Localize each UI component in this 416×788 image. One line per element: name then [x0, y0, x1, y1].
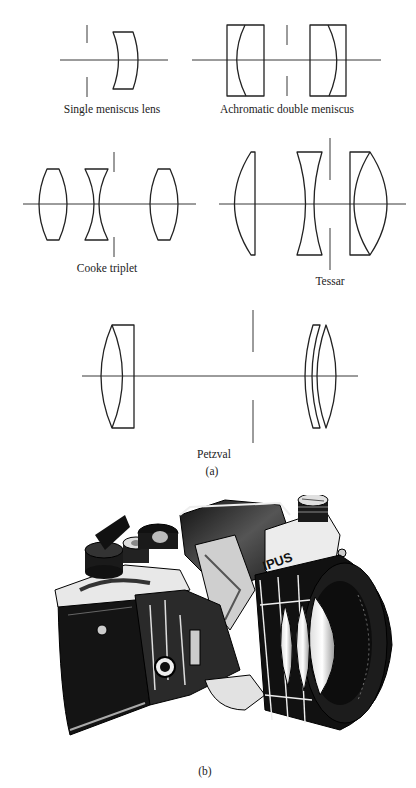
biconvex-lens-2	[150, 169, 178, 240]
panel-label-b: (b)	[198, 765, 211, 777]
meniscus-lens	[113, 32, 138, 89]
biconvex-lens-1	[39, 169, 67, 240]
caption-single-meniscus: Single meniscus lens	[64, 103, 160, 115]
caption-petzval: Petzval	[197, 448, 231, 460]
camera-cutaway-illustration: IPUS	[40, 495, 400, 750]
rear-biconvex-lens	[317, 325, 336, 428]
tessar-diagram	[219, 138, 406, 270]
shutter-speed-dial	[138, 524, 178, 549]
cemented-doublet-outer	[350, 152, 387, 255]
camera-body-left	[58, 590, 150, 735]
right-doublet	[310, 25, 346, 96]
rear-meniscus-lens	[305, 325, 320, 428]
cooke-triplet-diagram	[23, 152, 196, 257]
top-right-knob	[298, 495, 328, 522]
strap-lug	[97, 625, 107, 635]
biconcave-lens	[297, 152, 322, 255]
caption-tessar: Tessar	[315, 275, 344, 287]
caption-achromatic-double-meniscus: Achromatic double meniscus	[220, 103, 354, 115]
left-doublet-interface	[237, 25, 246, 96]
mirror-housing-bottom	[205, 675, 265, 710]
lens-barrel	[255, 555, 392, 730]
petzval-diagram	[82, 310, 358, 443]
right-doublet-interface	[328, 25, 337, 96]
panel-label-a: (a)	[206, 465, 219, 477]
front-doublet-interface	[112, 325, 123, 428]
battery	[190, 630, 200, 665]
lens-diagrams-panel	[0, 0, 416, 480]
cemented-doublet-interface	[354, 152, 370, 255]
caption-cooke-triplet: Cooke triplet	[77, 262, 137, 274]
plano-convex-lens	[235, 152, 256, 255]
achromatic-double-meniscus-diagram	[192, 25, 381, 96]
left-doublet	[227, 25, 264, 96]
single-meniscus-diagram	[60, 25, 168, 97]
biconcave-lens	[85, 169, 108, 240]
